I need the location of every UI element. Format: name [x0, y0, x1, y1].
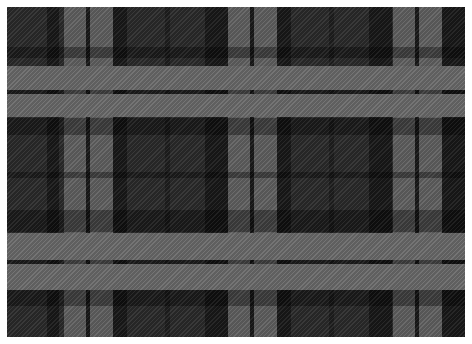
dark-horizontal-band [7, 260, 465, 264]
horizontal-stripe [7, 264, 465, 290]
dark-horizontal-band [7, 90, 465, 94]
horizontal-stripe [7, 66, 465, 90]
dark-horizontal-band [7, 290, 465, 306]
dark-horizontal-band [7, 118, 465, 135]
horizontal-stripe [7, 94, 465, 117]
tartan-fabric [7, 7, 465, 337]
horizontal-stripe [7, 233, 465, 260]
dark-horizontal-band [7, 47, 465, 58]
dark-horizontal-band [7, 210, 465, 232]
dark-horizontal-band [7, 172, 465, 178]
